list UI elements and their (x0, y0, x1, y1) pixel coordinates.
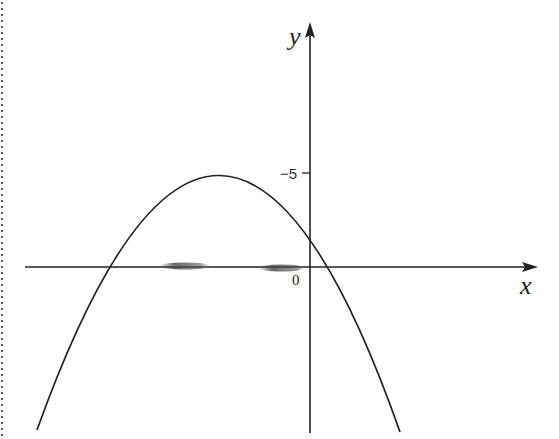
x-axis-label: x (519, 271, 532, 300)
y-axis (305, 22, 315, 433)
parabola-diagram: −5 0 y x (0, 0, 559, 439)
parabola-curve (37, 175, 400, 432)
y-axis-label: y (286, 22, 301, 51)
smudge-mark (159, 263, 211, 270)
origin-label: 0 (292, 272, 300, 288)
y-tick-label: −5 (280, 165, 297, 182)
smudge-mark (258, 265, 306, 272)
